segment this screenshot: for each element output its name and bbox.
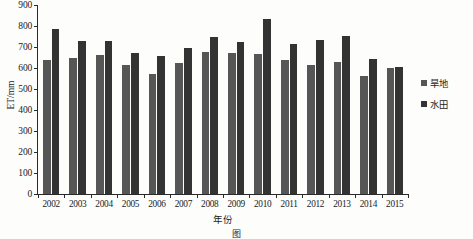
bar-水田-2007 (184, 48, 192, 194)
bar-水田-2012 (316, 40, 324, 194)
x-tick-label-2007: 2007 (175, 199, 192, 209)
x-tick-label-2004: 2004 (95, 199, 112, 209)
bar-旱地-2009 (228, 53, 236, 194)
bar-水田-2015 (395, 67, 403, 194)
x-tick-mark (223, 194, 224, 198)
y-tick-label: 600 (18, 63, 32, 73)
y-tick-mark (34, 152, 38, 153)
bar-旱地-2006 (149, 74, 157, 194)
x-tick-label-2006: 2006 (148, 199, 165, 209)
y-tick-label: 800 (18, 21, 32, 31)
figure-caption: 图 (0, 227, 473, 239)
y-tick-label: 500 (18, 84, 32, 94)
bar-旱地-2015 (387, 68, 395, 194)
bar-水田-2008 (210, 37, 218, 194)
y-tick-label: 900 (18, 0, 32, 10)
y-tick-mark (34, 5, 38, 6)
bar-旱地-2010 (254, 54, 262, 194)
y-tick-label: 300 (18, 126, 32, 136)
bar-旱地-2002 (43, 60, 51, 194)
x-tick-mark (170, 194, 171, 198)
bar-水田-2010 (263, 19, 271, 194)
x-tick-mark (408, 194, 409, 198)
bar-水田-2014 (369, 59, 377, 194)
y-tick-mark (34, 173, 38, 174)
legend-label: 水田 (430, 97, 448, 111)
x-tick-mark (117, 194, 118, 198)
legend-swatch-icon (421, 101, 427, 107)
bar-水田-2004 (105, 41, 113, 194)
x-tick-mark-origin (38, 194, 39, 198)
y-tick-mark (34, 26, 38, 27)
legend-item-旱地[interactable]: 旱地 (421, 76, 448, 90)
bar-旱地-2004 (96, 55, 104, 194)
bar-旱地-2007 (175, 63, 183, 194)
y-tick-mark (34, 131, 38, 132)
x-tick-mark (249, 194, 250, 198)
bar-水田-2013 (342, 36, 350, 194)
bar-旱地-2014 (360, 76, 368, 194)
bar-旱地-2011 (281, 60, 289, 194)
bar-旱地-2013 (334, 62, 342, 194)
bar-水田-2005 (131, 53, 139, 194)
y-tick-label: 400 (18, 105, 32, 115)
x-tick-label-2005: 2005 (122, 199, 139, 209)
x-tick-label-2014: 2014 (360, 199, 377, 209)
x-tick-mark (91, 194, 92, 198)
y-tick-mark (34, 110, 38, 111)
x-tick-mark (144, 194, 145, 198)
bar-水田-2003 (78, 41, 86, 194)
x-tick-label-2015: 2015 (386, 199, 403, 209)
y-tick-mark (34, 89, 38, 90)
bar-旱地-2005 (122, 65, 130, 194)
chart-legend: 旱地水田 (421, 76, 448, 111)
bar-旱地-2003 (69, 58, 77, 194)
x-tick-label-2013: 2013 (333, 199, 350, 209)
x-tick-mark (197, 194, 198, 198)
x-tick-label-2003: 2003 (69, 199, 86, 209)
x-tick-mark (276, 194, 277, 198)
bar-旱地-2008 (202, 52, 210, 194)
x-tick-mark (382, 194, 383, 198)
x-tick-label-2009: 2009 (228, 199, 245, 209)
y-axis-title: ET/mm (6, 65, 16, 125)
x-tick-label-2010: 2010 (254, 199, 271, 209)
chart-root: ET/mm 0100200300400500600700800900200220… (0, 0, 473, 239)
x-tick-label-2008: 2008 (201, 199, 218, 209)
bar-水田-2011 (290, 44, 298, 194)
legend-swatch-icon (421, 80, 427, 86)
x-tick-mark (329, 194, 330, 198)
legend-item-水田[interactable]: 水田 (421, 97, 448, 111)
bar-水田-2002 (52, 29, 60, 194)
y-tick-mark (34, 68, 38, 69)
y-tick-label: 700 (18, 42, 32, 52)
x-tick-mark (302, 194, 303, 198)
bar-水田-2009 (237, 42, 245, 194)
legend-label: 旱地 (430, 76, 448, 90)
plot-area: 0100200300400500600700800900200220032004… (37, 5, 408, 195)
x-tick-mark (355, 194, 356, 198)
x-tick-mark (64, 194, 65, 198)
y-tick-label: 200 (18, 147, 32, 157)
y-tick-mark (34, 47, 38, 48)
x-tick-label-2002: 2002 (43, 199, 60, 209)
y-tick-label: 100 (18, 168, 32, 178)
x-axis-title: 年份 (37, 212, 408, 226)
x-tick-label-2012: 2012 (307, 199, 324, 209)
y-tick-label: 0 (27, 189, 32, 199)
x-tick-label-2011: 2011 (281, 199, 298, 209)
bar-水田-2006 (157, 56, 165, 194)
bar-旱地-2012 (307, 65, 315, 194)
